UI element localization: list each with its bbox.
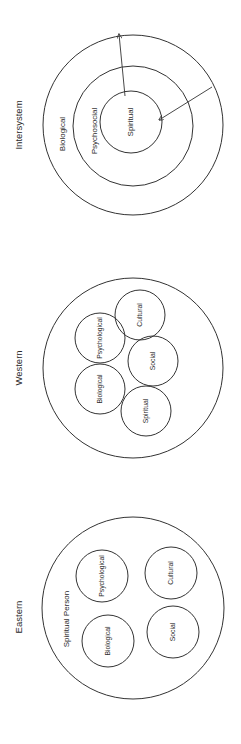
label-psychological: Psychological — [96, 317, 104, 359]
panel-title-intersystem: Intersystem — [13, 100, 24, 149]
panel-title-eastern: Eastern — [13, 601, 24, 634]
label-biological: Biological — [58, 117, 67, 151]
label-spiritual: Spiritual — [142, 398, 150, 423]
label-spiritual-person: Spiritual Person — [62, 591, 71, 647]
panel-title-western: Western — [13, 350, 24, 385]
label-biological: Biological — [96, 374, 104, 404]
label-biological: Biological — [104, 626, 112, 656]
panel-eastern: Eastern Spiritual Person Psychological C… — [13, 517, 224, 699]
panel-western: Western Psychological Biological Cultura… — [13, 278, 223, 458]
arrow-outward-icon — [119, 34, 125, 96]
panel-intersystem: Intersystem Biological Psychosocial Spir… — [13, 34, 223, 215]
label-cultural: Cultural — [136, 303, 143, 327]
label-cultural: Cultural — [167, 561, 174, 585]
circle-western-outer — [43, 278, 223, 458]
spirituality-models-diagram: Intersystem Biological Psychosocial Spir… — [0, 0, 241, 744]
label-social: Social — [169, 622, 176, 641]
label-psychological: Psychological — [98, 555, 106, 597]
label-spiritual: Spiritual — [126, 107, 135, 136]
label-psychosocial: Psychosocial — [90, 107, 99, 154]
arrow-inward-icon — [159, 87, 212, 120]
label-social: Social — [149, 351, 156, 370]
